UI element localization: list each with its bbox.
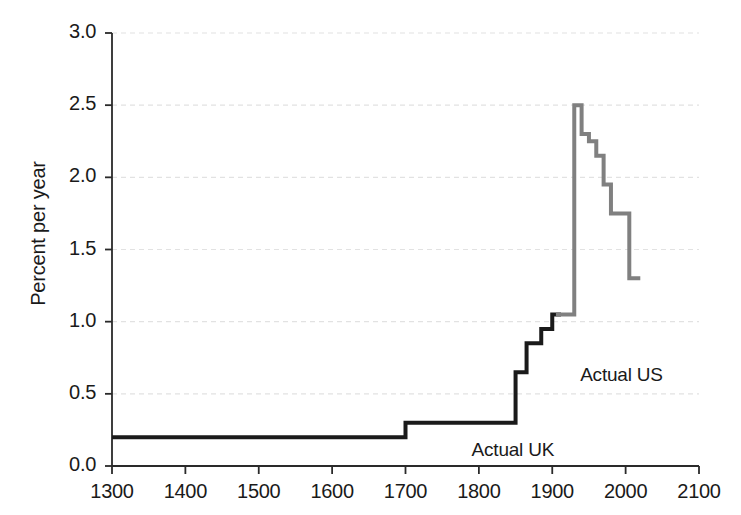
plot-area: [0, 0, 741, 515]
x-tick-label: 1300: [72, 480, 152, 503]
series-label-actual-us: Actual US: [580, 364, 663, 386]
x-tick-label: 1900: [512, 480, 592, 503]
y-tick-label: 0.5: [36, 381, 96, 404]
y-tick-label: 1.5: [36, 237, 96, 260]
x-tick-label: 1600: [292, 480, 372, 503]
y-tick-label: 2.0: [36, 164, 96, 187]
x-tick-label: 1500: [219, 480, 299, 503]
tick-marks: [105, 33, 699, 474]
chart-container: Percent per year 0.00.51.01.52.02.53.0 1…: [0, 0, 741, 515]
series-label-actual-uk: Actual UK: [472, 439, 555, 461]
y-tick-label: 0.0: [36, 453, 96, 476]
x-tick-label: 2000: [586, 480, 666, 503]
y-tick-label: 1.0: [36, 309, 96, 332]
x-tick-label: 1800: [439, 480, 519, 503]
x-tick-label: 1400: [145, 480, 225, 503]
y-tick-label: 2.5: [36, 92, 96, 115]
y-tick-label: 3.0: [36, 20, 96, 43]
x-tick-label: 1700: [366, 480, 446, 503]
x-tick-label: 2100: [659, 480, 739, 503]
data-series: [112, 105, 640, 437]
